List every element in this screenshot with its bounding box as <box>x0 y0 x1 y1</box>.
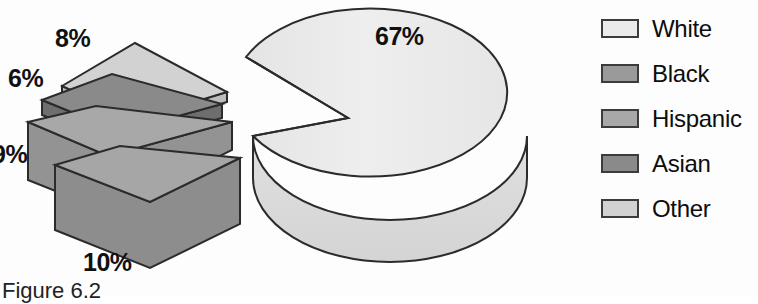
legend-swatch-asian <box>601 154 639 173</box>
legend-swatch-hispanic <box>601 109 639 128</box>
legend-item-other: Other <box>601 186 758 231</box>
legend-item-black: Black <box>601 51 758 96</box>
legend-label-white: White <box>652 17 712 41</box>
legend-label-black: Black <box>652 62 709 86</box>
chart-legend: White Black Hispanic Asian Other <box>601 6 758 231</box>
legend-label-asian: Asian <box>652 152 711 176</box>
slice-label-asian: 6% <box>8 64 43 93</box>
slice-label-white: 67% <box>375 22 424 51</box>
slice-label-hispanic: 9% <box>0 140 27 169</box>
slice-label-other: 8% <box>55 24 90 53</box>
legend-swatch-white <box>601 19 639 38</box>
slice-label-black: 10% <box>83 248 132 277</box>
legend-label-other: Other <box>652 197 711 221</box>
legend-item-hispanic: Hispanic <box>601 96 758 141</box>
figure-caption: Figure 6.2 <box>2 278 101 304</box>
legend-label-hispanic: Hispanic <box>652 107 742 131</box>
legend-item-white: White <box>601 6 758 51</box>
legend-item-asian: Asian <box>601 141 758 186</box>
legend-swatch-black <box>601 64 639 83</box>
legend-swatch-other <box>601 199 639 218</box>
